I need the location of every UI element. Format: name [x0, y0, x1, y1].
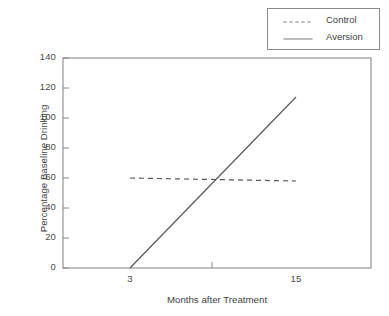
legend-label-aversion: Aversion — [326, 31, 363, 42]
chart-figure: 140 120 100 80 60 40 20 0 3 15 Percentag… — [0, 0, 389, 316]
legend-entry-control: Control — [268, 14, 379, 30]
y-tick-label-140: 140 — [26, 51, 56, 62]
chart-legend: Control Aversion — [267, 8, 380, 50]
legend-label-control: Control — [326, 14, 357, 25]
legend-key-solid-icon — [276, 38, 320, 40]
y-axis-ticks — [63, 58, 69, 268]
series-line-aversion — [130, 97, 296, 268]
series-line-control — [130, 178, 296, 181]
plot-frame — [63, 58, 371, 268]
legend-entry-aversion: Aversion — [268, 31, 379, 47]
legend-key-dashed-icon — [276, 21, 320, 23]
x-tick-label-3: 3 — [110, 273, 150, 284]
x-axis-title: Months after Treatment — [63, 294, 371, 305]
x-tick-label-15: 15 — [276, 273, 316, 284]
y-axis-title: Percentage Baseline Drinking — [38, 74, 49, 264]
